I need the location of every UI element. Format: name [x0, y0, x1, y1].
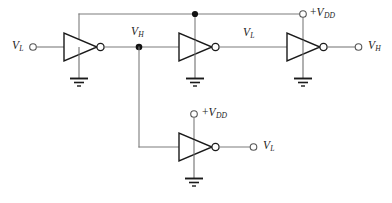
- net-vh: [104, 44, 179, 147]
- vdd-supply-bottom: [191, 111, 198, 140]
- output-terminal-vh-circle[interactable]: [355, 44, 362, 51]
- label-output-vl-bottom: VL: [263, 140, 274, 152]
- inverter-2[interactable]: [179, 33, 219, 86]
- output-net-vl-bottom: [219, 144, 257, 151]
- inverter-4[interactable]: [179, 133, 219, 186]
- output-net-vh: [327, 44, 362, 51]
- input-terminal-vl-circle[interactable]: [30, 44, 37, 51]
- inverter-1-triangle: [64, 33, 97, 61]
- ground-symbol-1: [70, 79, 88, 87]
- input-net-vl: [30, 44, 64, 51]
- schematic-canvas: VL VH VL VH +VDD +VDD VL: [0, 0, 392, 203]
- ground-symbol-2: [186, 79, 204, 87]
- label-vdd-bottom: +VDD: [202, 107, 227, 119]
- inverter-3-bubble: [320, 43, 327, 50]
- inverter-1-bubble: [97, 43, 104, 50]
- vdd-terminal-top-circle[interactable]: [300, 11, 307, 18]
- ground-symbol-4: [185, 179, 203, 187]
- label-node-vh: VH: [131, 26, 144, 38]
- circuit-schematic: [0, 0, 392, 203]
- inverter-2-bubble: [212, 43, 219, 50]
- output-terminal-vl-circle[interactable]: [250, 144, 257, 151]
- ground-symbol-3: [294, 79, 312, 87]
- label-output-vh: VH: [368, 40, 381, 52]
- label-mid-vl: VL: [243, 27, 254, 39]
- inverter-1[interactable]: [64, 33, 104, 86]
- inverter-4-bubble: [212, 143, 219, 150]
- label-input-vl: VL: [12, 40, 23, 52]
- vdd-terminal-bottom-circle[interactable]: [191, 111, 198, 118]
- inverter-4-triangle: [179, 133, 212, 161]
- inverter-3[interactable]: [287, 33, 327, 86]
- label-vdd-top: +VDD: [310, 7, 335, 19]
- junction-dot-vdd-rail: [192, 11, 198, 17]
